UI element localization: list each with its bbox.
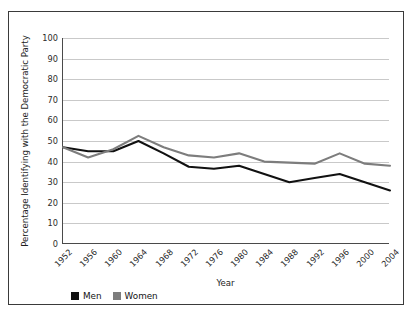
x-axis-tick-label: 1968 [153, 247, 175, 269]
plot-area: 0102030405060708090100 19521956196019641… [62, 38, 389, 244]
legend-item-men[interactable]: Men [71, 291, 102, 301]
x-axis-tick-label: 1952 [52, 247, 74, 269]
series-lines [63, 38, 390, 244]
x-axis-tick-label: 1976 [203, 247, 225, 269]
y-axis-tick-label: 0 [53, 239, 58, 249]
x-axis-tick-label: 1960 [103, 247, 125, 269]
legend-item-women[interactable]: Women [113, 291, 158, 301]
x-axis-tick-label: 1996 [329, 247, 351, 269]
legend-swatch-icon [71, 292, 79, 300]
x-axis-tick-label: 1988 [279, 247, 301, 269]
chart-figure: Percentage Identifying with the Democrat… [8, 11, 404, 305]
y-axis-label-text: Percentage Identifying with the Democrat… [20, 35, 30, 247]
legend-label: Women [125, 291, 158, 301]
legend-swatch-icon [113, 292, 121, 300]
y-axis-label: Percentage Identifying with the Democrat… [18, 38, 32, 244]
x-axis-tick-label: 1964 [128, 247, 150, 269]
y-axis-tick-label: 40 [48, 157, 58, 167]
series-line-men [63, 141, 390, 190]
y-axis-tick-label: 60 [48, 115, 58, 125]
x-axis-tick-label: 2004 [379, 247, 401, 269]
y-axis-tick-label: 30 [48, 177, 58, 187]
y-axis-tick-label: 50 [48, 136, 58, 146]
y-axis-tick-label: 80 [48, 74, 58, 84]
y-axis-tick-label: 70 [48, 95, 58, 105]
x-axis-tick-label: 1980 [228, 247, 250, 269]
y-axis-tick-label: 20 [48, 198, 58, 208]
legend-label: Men [83, 291, 102, 301]
y-axis-tick-label: 90 [48, 54, 58, 64]
x-axis-tick-label: 2000 [354, 247, 376, 269]
x-axis-tick-label: 1972 [178, 247, 200, 269]
x-axis-label: Year [62, 278, 389, 288]
plot-wrapper: Percentage Identifying with the Democrat… [9, 12, 405, 306]
y-axis-tick-label: 100 [42, 33, 58, 43]
chart-legend: MenWomen [71, 291, 158, 301]
y-axis-tick-label: 10 [48, 218, 58, 228]
x-axis-tick-label: 1992 [304, 247, 326, 269]
x-axis-tick-label: 1984 [253, 247, 275, 269]
x-axis-tick-label: 1956 [77, 247, 99, 269]
